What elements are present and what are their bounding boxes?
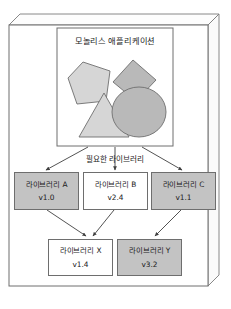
library-b-name: 라이브러리 B [95,181,137,188]
library-x-version: v1.4 [72,261,88,268]
circle-shape [112,87,166,137]
library-box-a[interactable]: 라이브러리 A v1.0 [14,172,79,210]
monolith-title: 모놀리스 애플리케이션 [57,34,173,46]
library-box-y[interactable]: 라이브러리 Y v3.2 [117,239,182,276]
library-y-name: 라이브러리 Y [129,247,170,254]
required-libraries-label: 필요한 라이브러리 [57,153,173,164]
library-x-name: 라이브러리 X [60,247,102,254]
library-b-version: v2.4 [107,194,123,201]
library-box-b[interactable]: 라이브러리 B v2.4 [83,172,148,210]
library-a-name: 라이브러리 A [26,181,68,188]
library-box-c[interactable]: 라이브러리 C v1.1 [151,172,216,210]
library-y-version: v3.2 [141,261,157,268]
library-a-version: v1.0 [38,194,54,201]
library-c-name: 라이브러리 C [163,181,205,188]
library-box-x[interactable]: 라이브러리 X v1.4 [48,239,113,276]
outer-panel-right-face [208,14,219,286]
figure-canvas: 모놀리스 애플리케이션 필요한 라이브러리 라이브러리 A v1.0 라이브러리… [0,0,231,309]
outer-panel-top-face [9,14,219,25]
library-c-version: v1.1 [175,194,191,201]
